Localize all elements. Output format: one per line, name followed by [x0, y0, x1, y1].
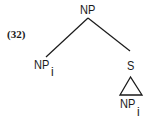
node-left-np: NP	[34, 58, 49, 71]
node-bottom-subscript: i	[137, 106, 140, 118]
triangle-icon	[120, 77, 142, 95]
node-s: S	[127, 59, 134, 72]
node-left-subscript: i	[51, 66, 54, 78]
branch-right	[88, 18, 130, 51]
node-bottom-np: NP	[120, 97, 135, 110]
branch-left	[46, 18, 88, 57]
node-root: NP	[80, 3, 95, 16]
